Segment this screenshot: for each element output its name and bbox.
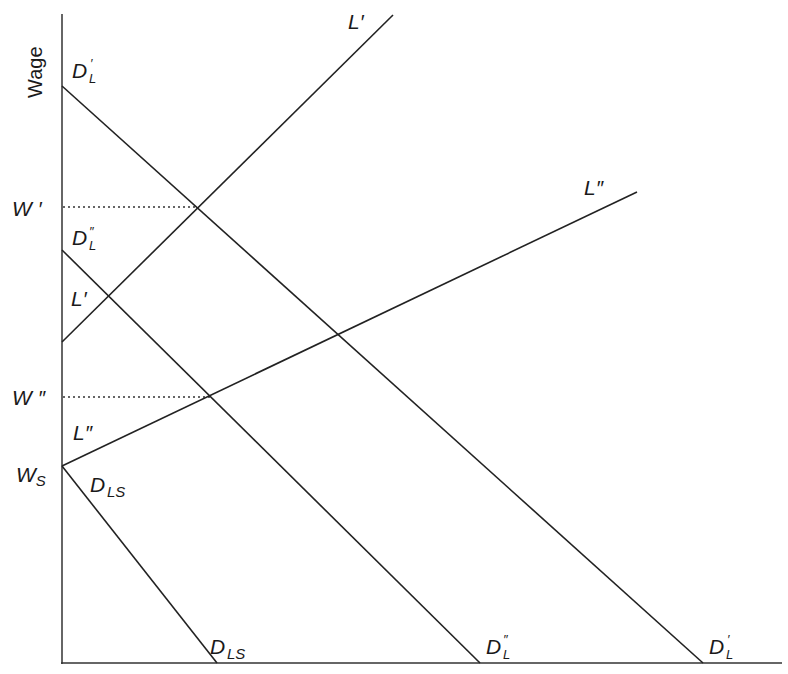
labor-market-diagram: Wage W ′ W ″ WS D L ′ D L ″ L′ L′ L″ L″ … [0, 0, 788, 674]
label-w-prime: W ′ [12, 197, 43, 220]
supply-curve-double-prime [62, 192, 637, 466]
svg-text:L: L [89, 238, 96, 253]
label-supply-prime-top: L′ [348, 10, 365, 33]
label-supply-double-prime-right: L″ [584, 176, 605, 199]
label-w-double-prime: W ″ [12, 386, 47, 409]
label-w-s: WS [16, 463, 46, 489]
demand-curve-double-prime [62, 250, 480, 663]
svg-text:D: D [72, 59, 87, 82]
label-demand-prime-top: D L ′ [72, 56, 96, 86]
svg-text:D: D [90, 473, 105, 496]
svg-text:′: ′ [90, 56, 93, 71]
svg-text:L: L [503, 647, 510, 662]
label-demand-double-prime-left: D L ″ [72, 224, 96, 253]
label-demand-prime-bottom: D L ′ [709, 632, 733, 662]
demand-curve-prime [62, 86, 703, 663]
svg-text:D: D [709, 635, 724, 658]
svg-text:LS: LS [107, 483, 125, 500]
svg-text:LS: LS [227, 645, 245, 662]
label-demand-ls-bottom: D LS [210, 635, 245, 662]
demand-curve-ls [62, 466, 217, 663]
svg-text:D: D [210, 635, 225, 658]
label-demand-ls-left: D LS [90, 473, 125, 500]
label-demand-double-prime-bottom: D L ″ [486, 632, 510, 662]
svg-text:″: ″ [503, 632, 508, 647]
svg-text:′: ′ [727, 632, 730, 647]
svg-text:L: L [89, 71, 96, 86]
supply-curve-prime [62, 15, 393, 342]
y-axis-title: Wage [24, 46, 46, 98]
label-supply-prime-left: L′ [71, 287, 88, 310]
svg-text:L: L [726, 647, 733, 662]
label-supply-double-prime-left: L″ [73, 421, 94, 444]
svg-text:D: D [486, 635, 501, 658]
svg-text:″: ″ [89, 224, 94, 239]
svg-text:D: D [72, 226, 87, 249]
